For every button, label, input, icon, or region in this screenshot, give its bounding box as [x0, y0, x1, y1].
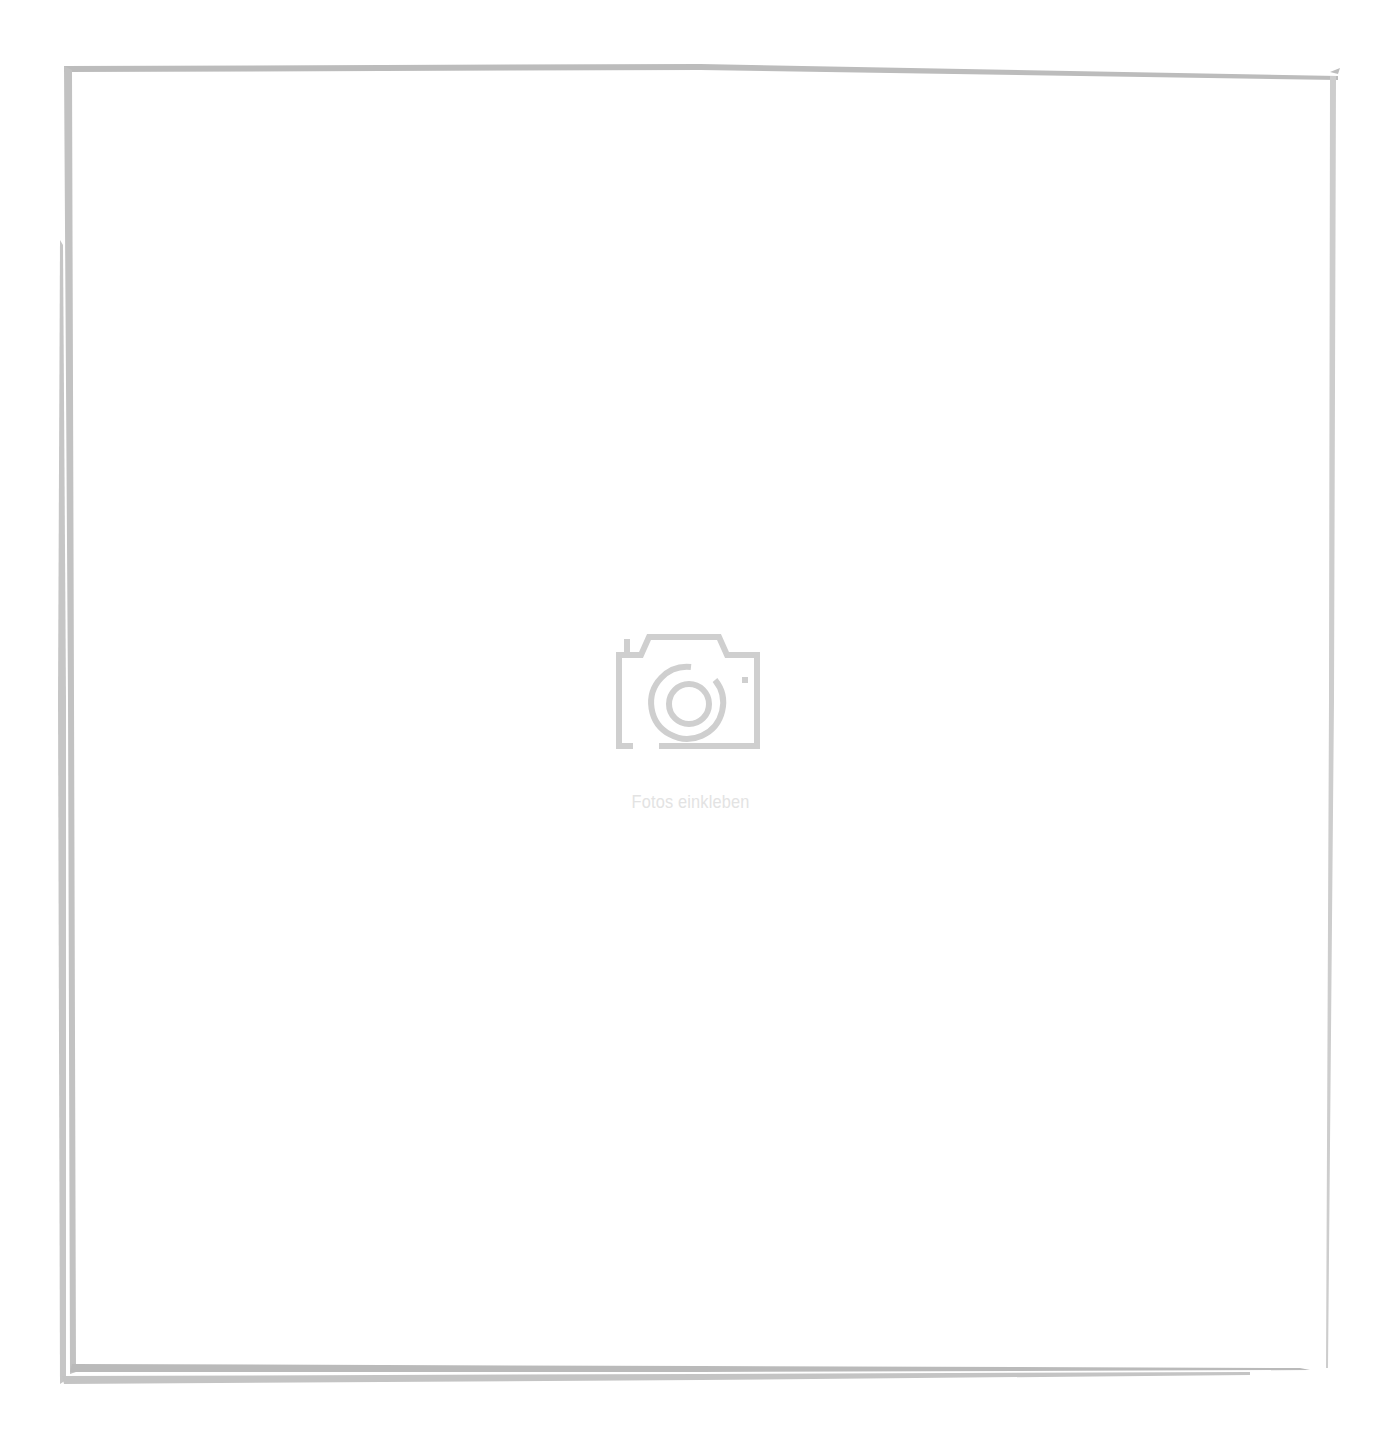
- photo-placeholder[interactable]: Fotos einkleben: [591, 625, 791, 813]
- frame-left-edge-sketch: [58, 240, 66, 1384]
- frame-bottom-edge: [70, 1364, 1310, 1372]
- placeholder-label: Fotos einkleben: [632, 791, 750, 813]
- camera-icon: [611, 625, 771, 755]
- frame-bottom-edge-sketch: [62, 1372, 1250, 1384]
